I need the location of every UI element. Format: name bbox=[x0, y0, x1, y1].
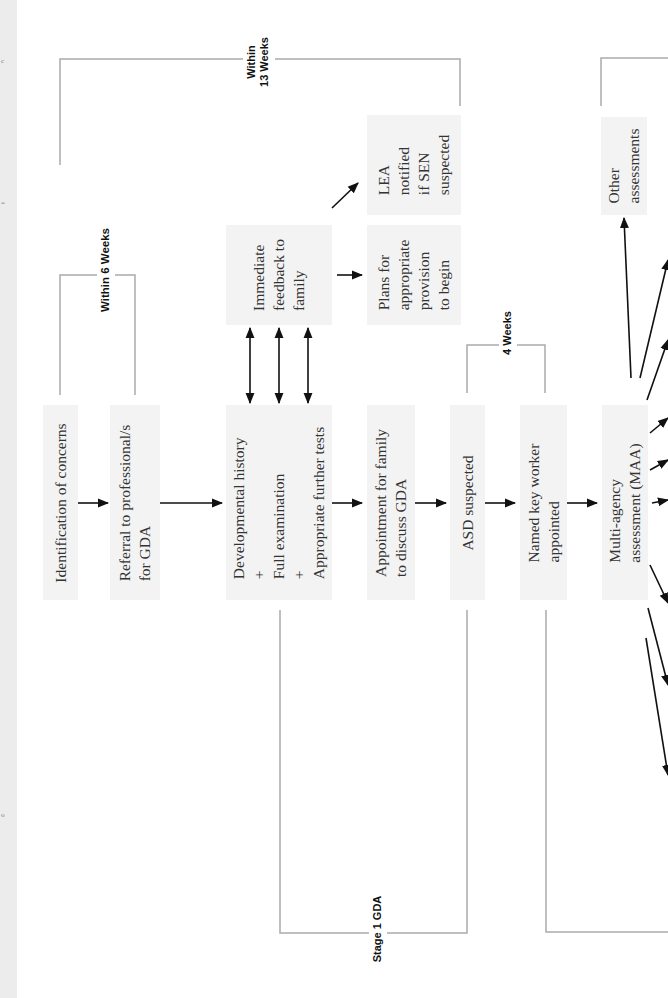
label-within-13-weeks: Within 13 Weeks bbox=[243, 35, 275, 89]
box-immediate-feedback: Immediate feedback to family bbox=[226, 225, 332, 325]
box-named-key-worker: Named key worker appointed bbox=[520, 405, 567, 600]
box-multi-agency-assessment: Multi-agency assessment (MAA) bbox=[602, 405, 648, 600]
box-referral-to-professionals: Referral to professional/s for GDA bbox=[110, 405, 160, 600]
box-identification-of-concerns: Identification of concerns bbox=[43, 405, 78, 600]
box-other-assessments: Other assessments bbox=[601, 117, 647, 215]
box-asd-suspected: ASD suspected bbox=[450, 405, 485, 600]
label-stage-1-gda: Stage 1 GDA bbox=[369, 886, 387, 972]
label-4-weeks: 4 Weeks bbox=[499, 306, 517, 360]
box-lea-notified: LEA notified if SEN suspected bbox=[367, 115, 461, 215]
box-appointment-for-family: Appointment for family to discuss GDA bbox=[367, 405, 415, 600]
label-within-6-weeks: Within 6 Weeks bbox=[97, 219, 115, 321]
connector-layer bbox=[0, 0, 668, 998]
bracket-stage-1-gda bbox=[280, 610, 467, 933]
box-plans-for-provision: Plans for appropriate provision to begin bbox=[367, 225, 461, 325]
box-developmental-history: Developmental history + Full examination… bbox=[226, 405, 332, 600]
